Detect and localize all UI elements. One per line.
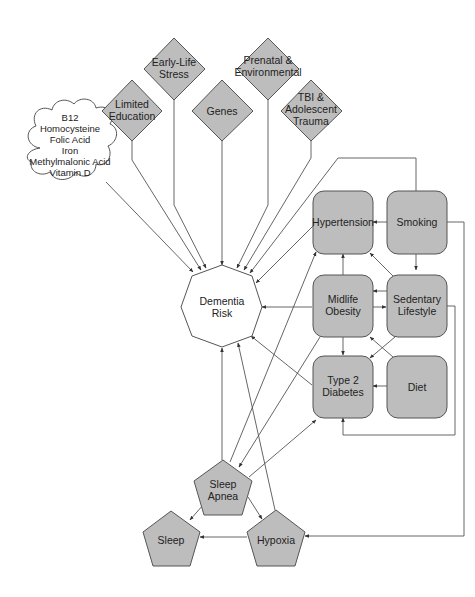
pentagon-sleep: Sleep (143, 511, 200, 566)
cloud-line-folic-acid: Folic Acid (50, 134, 91, 145)
box-diet: Diet (387, 356, 447, 418)
label-line: Education (109, 110, 156, 122)
label-line: Smoking (397, 216, 438, 228)
label-line: Hypertension (312, 216, 374, 228)
edge-apnea-hypoxia (248, 497, 262, 519)
label-line: Risk (212, 307, 233, 319)
label-line: Limited (115, 98, 149, 110)
edge-diabetes-dementia (251, 336, 312, 385)
label-line: Adolescent (285, 103, 337, 115)
label-line: Apnea (208, 490, 239, 502)
diamond-early-life-stress: Early-Life Stress (144, 38, 205, 100)
label-line: Obesity (325, 305, 361, 317)
edge-apnea-sleep (190, 505, 203, 520)
label-line: Sedentary (393, 293, 442, 305)
edge-stress-dementia (174, 100, 206, 268)
diamond-prenatal-environmental: Prenatal & Environmental (234, 38, 301, 100)
label-line: Prenatal & (243, 54, 292, 66)
box-type2-diabetes: Type 2 Diabetes (313, 356, 373, 418)
edge-education-dementia (132, 141, 201, 270)
label-line: Sleep (158, 534, 185, 546)
label-line: Early-Life (152, 56, 197, 68)
label-line: Lifestyle (398, 305, 437, 317)
dementia-risk-diagram: B12 Homocysteine Folic Acid Iron Methylm… (0, 0, 475, 597)
cloud-line-b12: B12 (62, 112, 79, 123)
pentagon-sleep-apnea: Sleep Apnea (194, 460, 252, 515)
cloud-line-vitamin-d: Vitamin D (49, 167, 90, 178)
pentagon-hypoxia: Hypoxia (247, 510, 305, 566)
edge-tbi-dementia (244, 141, 311, 270)
edge-diet-obesity (370, 337, 393, 357)
box-midlife-obesity: Midlife Obesity (313, 275, 373, 337)
label-line: Sleep (210, 478, 237, 490)
edge-nutrients-dementia (106, 182, 193, 272)
label-line: Dementia (200, 295, 245, 307)
edge-sedentary-hypertension (370, 253, 393, 276)
cloud-line-iron: Iron (62, 145, 78, 156)
label-line: Environmental (234, 66, 301, 78)
label-line: Stress (159, 68, 189, 80)
diamond-genes: Genes (192, 80, 253, 141)
box-sedentary-lifestyle: Sedentary Lifestyle (387, 275, 447, 337)
label-line: TBI & (298, 91, 324, 103)
edge-apnea-diabetes (249, 420, 316, 477)
diamond-tbi-trauma: TBI & Adolescent Trauma (281, 80, 342, 141)
label-line: Midlife (328, 293, 359, 305)
label-line: Type 2 (327, 374, 359, 386)
box-hypertension: Hypertension (312, 191, 374, 254)
box-smoking: Smoking (387, 191, 447, 254)
label-line: Hypoxia (257, 534, 295, 546)
label-line: Diet (408, 381, 427, 393)
cloud-line-homocysteine: Homocysteine (40, 123, 100, 134)
label-line: Diabetes (322, 386, 363, 398)
cloud-line-methylmalonic-acid: Methylmalonic Acid (29, 156, 110, 167)
label-line: Genes (207, 105, 238, 117)
label-line: Trauma (293, 115, 329, 127)
dementia-risk-node: Dementia Risk (181, 265, 262, 347)
edge-prenatal-dementia (237, 100, 268, 268)
